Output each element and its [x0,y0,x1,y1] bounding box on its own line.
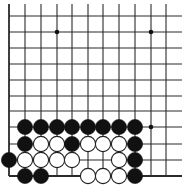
white-stone[interactable] [64,152,79,167]
black-stone[interactable] [64,119,79,134]
white-stone[interactable] [17,152,32,167]
white-stone[interactable] [33,152,48,167]
grid-lines [9,4,182,176]
white-stone[interactable] [95,168,110,183]
star-point-icon [149,125,154,130]
black-stone[interactable] [127,119,142,134]
go-board-canvas[interactable] [0,0,182,187]
black-stone[interactable] [33,168,48,183]
black-stone[interactable] [17,168,32,183]
star-point-icon [55,30,60,35]
black-stone[interactable] [1,152,16,167]
black-stone[interactable] [80,119,95,134]
black-stone[interactable] [64,136,79,151]
go-board[interactable] [0,0,182,187]
black-stone[interactable] [127,152,142,167]
black-stone[interactable] [17,119,32,134]
black-stone[interactable] [49,119,64,134]
black-stone[interactable] [111,119,126,134]
black-stone[interactable] [127,136,142,151]
white-stone[interactable] [111,136,126,151]
black-stone[interactable] [127,168,142,183]
black-stone[interactable] [17,136,32,151]
white-stone[interactable] [111,168,126,183]
black-stone[interactable] [33,119,48,134]
white-stone[interactable] [95,136,110,151]
white-stone[interactable] [33,136,48,151]
white-stone[interactable] [111,152,126,167]
white-stone[interactable] [80,168,95,183]
white-stone[interactable] [49,136,64,151]
star-point-icon [149,30,154,35]
black-stone[interactable] [95,119,110,134]
white-stone[interactable] [80,136,95,151]
white-stone[interactable] [49,152,64,167]
